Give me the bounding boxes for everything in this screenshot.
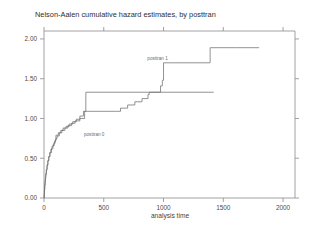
y-tick-label: 0.50 <box>25 155 38 162</box>
plot-frame <box>44 31 295 198</box>
x-tick-label: 0 <box>42 204 46 211</box>
axes-group: 05001000150020000.000.501.001.502.00 <box>25 27 299 211</box>
series-curve <box>44 48 259 198</box>
y-tick-label: 2.00 <box>25 35 38 42</box>
series-annotation-label: posttran 0 <box>84 132 105 137</box>
x-axis-title: analysis time <box>151 212 189 220</box>
series-annotation-label: posttran 1 <box>147 56 168 61</box>
series-annotations: posttran 1posttran 0 <box>84 56 168 137</box>
y-tick-label: 1.00 <box>25 115 38 122</box>
y-tick-label: 0.00 <box>25 194 38 201</box>
x-tick-label: 2000 <box>276 204 291 211</box>
nelson-aalen-chart: Nelson-Aalen cumulative hazard estimates… <box>0 0 313 233</box>
x-tick-label: 500 <box>98 204 109 211</box>
y-tick-label: 1.50 <box>25 75 38 82</box>
series-curve <box>44 92 214 198</box>
x-tick-label: 1000 <box>156 204 171 211</box>
chart-page: Nelson-Aalen cumulative hazard estimates… <box>0 0 313 233</box>
chart-title: Nelson-Aalen cumulative hazard estimates… <box>35 10 216 19</box>
series-group <box>44 48 259 198</box>
x-tick-label: 1500 <box>216 204 231 211</box>
